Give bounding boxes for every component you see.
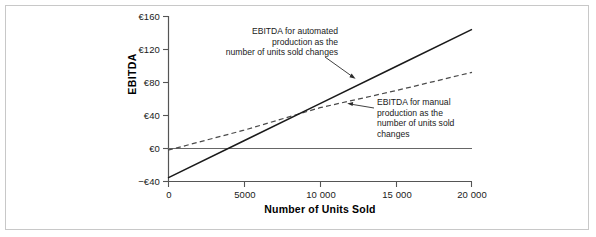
annotation-leader-manual — [347, 102, 374, 108]
x-axis-title: Number of Units Sold — [168, 203, 472, 215]
annotation-automated-line-3: number of units sold changes — [190, 47, 338, 58]
y-tick-marks — [163, 17, 168, 182]
y-tick-label-160: €160 — [118, 11, 160, 22]
y-tick-label-120: €120 — [118, 44, 160, 55]
annotation-manual-line-4: changes — [377, 129, 492, 140]
annotation-manual-line-1: EBITDA for manual — [377, 97, 492, 108]
y-axis-title: EBITDA — [126, 39, 138, 109]
x-tick-label-15000: 15 000 — [372, 189, 422, 200]
annotation-automated-line-1: EBITDA for automated — [190, 26, 338, 37]
y-tick-label-40: €40 — [118, 110, 160, 121]
annotation-manual-line-2: production as the — [377, 108, 492, 119]
x-tick-label-5000: 5000 — [222, 189, 268, 200]
y-tick-label-0: €0 — [118, 143, 160, 154]
chart-figure: €160 €120 €80 €40 €0 −€40 0 5000 10 000 … — [0, 0, 596, 237]
x-tick-label-20000: 20 000 — [447, 189, 497, 200]
y-tick-label-80: €80 — [118, 77, 160, 88]
x-tick-marks — [169, 182, 472, 187]
annotation-automated-line-2: production as the — [190, 37, 338, 48]
annotation-leader-automated — [325, 57, 356, 79]
annotation-manual-production: EBITDA for manual production as the numb… — [377, 97, 492, 139]
annotation-manual-line-3: number of units sold — [377, 118, 492, 129]
x-tick-label-0: 0 — [149, 189, 189, 200]
x-tick-label-10000: 10 000 — [296, 189, 346, 200]
annotation-automated-production: EBITDA for automated production as the n… — [190, 26, 338, 58]
y-tick-label-minus40: −€40 — [113, 176, 160, 187]
